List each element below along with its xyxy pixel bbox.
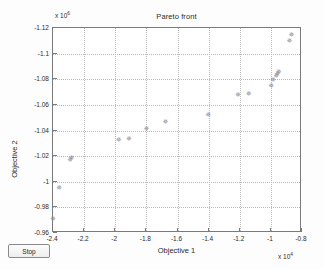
y-axis-tick-mark [53,104,57,105]
x-axis-tick-mark [177,228,178,232]
scatter-point: ✵ [268,83,275,90]
scatter-point: ✵ [115,137,122,144]
chart-title: Pareto front [52,12,301,21]
y-axis-tick-label: -0.98 [20,203,49,210]
x-axis-tick-label: -1.2 [233,235,244,242]
x-axis-exponent-annotation: x 104 [278,252,293,260]
x-axis-tick-label: -2.2 [78,235,89,242]
y-axis-tick-mark [53,53,57,54]
plot-axes-box: ✵✵✵✵✵✵✵✵✵✵✵✵✵✵✵✵✵✵ [52,27,301,232]
y-axis-tick-label: -1.08 [20,75,49,82]
y-axis-label: Objective 2 [10,140,19,178]
y-axis-tick-mark [53,206,57,207]
y-axis-tick-mark [53,78,57,79]
x-axis-tick-label: -0.8 [295,235,306,242]
x-axis-tick-mark [270,228,271,232]
x-axis-tick-label: -1.4 [202,235,213,242]
scatter-point: ✵ [234,92,241,99]
y-exponent-power: 6 [67,11,70,16]
scatter-point: ✵ [68,155,75,162]
y-axis-tick-mark [53,155,57,156]
x-axis-label: Objective 1 [52,246,301,255]
y-axis-tick-label: -1.1 [20,49,49,56]
y-axis-tick-label: -0.96 [20,229,49,236]
scatter-point: ✵ [56,185,63,192]
x-axis-tick-mark [83,228,84,232]
scatter-point: ✵ [125,136,132,143]
y-axis-tick-mark [53,130,57,131]
scatter-point: ✵ [245,91,252,98]
y-axis-tick-label: -1.06 [20,100,49,107]
y-exponent-base: x 10 [55,12,67,19]
stop-button-label: Stop [22,248,35,255]
scatter-point: ✵ [275,69,282,76]
y-axis-tick-label: -1.02 [20,152,49,159]
x-exponent-base: x 10 [278,253,290,260]
x-axis-tick-mark [239,228,240,232]
y-axis-tick-label: -1 [20,177,49,184]
x-exponent-power: 4 [290,252,293,257]
x-axis-tick-label: -1 [267,235,273,242]
scatter-point: ✵ [143,126,150,133]
y-axis-tick-mark [53,27,57,28]
y-axis-tick-label: -1.04 [20,126,49,133]
matlab-figure-window: Pareto front x 106 ✵✵✵✵✵✵✵✵✵✵✵✵✵✵✵✵✵✵ -2… [0,0,324,269]
x-axis-tick-label: -1.8 [140,235,151,242]
scatter-point: ✵ [162,119,169,126]
x-axis-tick-mark [301,228,302,232]
x-axis-tick-mark [208,228,209,232]
stop-button[interactable]: Stop [8,244,50,258]
x-axis-tick-mark [145,228,146,232]
scatter-point: ✵ [50,216,57,223]
y-axis-tick-mark [53,232,57,233]
x-axis-tick-label: -2.4 [46,235,57,242]
x-axis-tick-label: -1.6 [171,235,182,242]
scatter-point: ✵ [205,112,212,119]
scatter-data-layer: ✵✵✵✵✵✵✵✵✵✵✵✵✵✵✵✵✵✵ [53,28,300,231]
y-axis-exponent-annotation: x 106 [55,11,70,19]
x-axis-tick-label: -2 [111,235,117,242]
y-axis-tick-mark [53,181,57,182]
x-axis-tick-mark [114,228,115,232]
y-axis-tick-label: -1.12 [20,24,49,31]
scatter-point: ✵ [288,32,295,39]
